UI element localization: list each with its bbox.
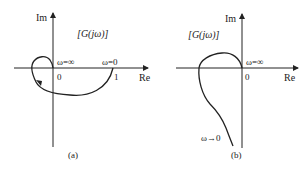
im-label-b: Im bbox=[225, 13, 236, 24]
im-label-a: Im bbox=[36, 12, 47, 23]
caption-b: (b) bbox=[231, 150, 242, 160]
omega-zero-label-b: ω→0 bbox=[201, 133, 221, 143]
omega-zero-label-a: ω=0 bbox=[102, 57, 118, 67]
function-label-b: [G(jω)] bbox=[188, 29, 220, 41]
one-tick-a: 1 bbox=[114, 72, 119, 82]
caption-a: (a) bbox=[68, 150, 78, 160]
function-label-a: [G(jω)] bbox=[77, 28, 109, 40]
re-label-a: Re bbox=[139, 72, 151, 83]
omega-inf-label-b: ω=∞ bbox=[246, 57, 263, 67]
omega-inf-label-a: ω=∞ bbox=[57, 57, 74, 67]
origin-tick-b: 0 bbox=[245, 72, 250, 82]
panel-a: Im Re [G(jω)] 0 1 ω=∞ ω=0 (a) bbox=[14, 12, 151, 160]
panel-b: Im Re [G(jω)] 0 ω=∞ ω→0 (b) bbox=[176, 13, 298, 160]
nyquist-diagrams: Im Re [G(jω)] 0 1 ω=∞ ω=0 (a) Im Re [G(j… bbox=[0, 0, 306, 171]
re-label-b: Re bbox=[284, 72, 296, 83]
origin-tick-a: 0 bbox=[57, 72, 62, 82]
